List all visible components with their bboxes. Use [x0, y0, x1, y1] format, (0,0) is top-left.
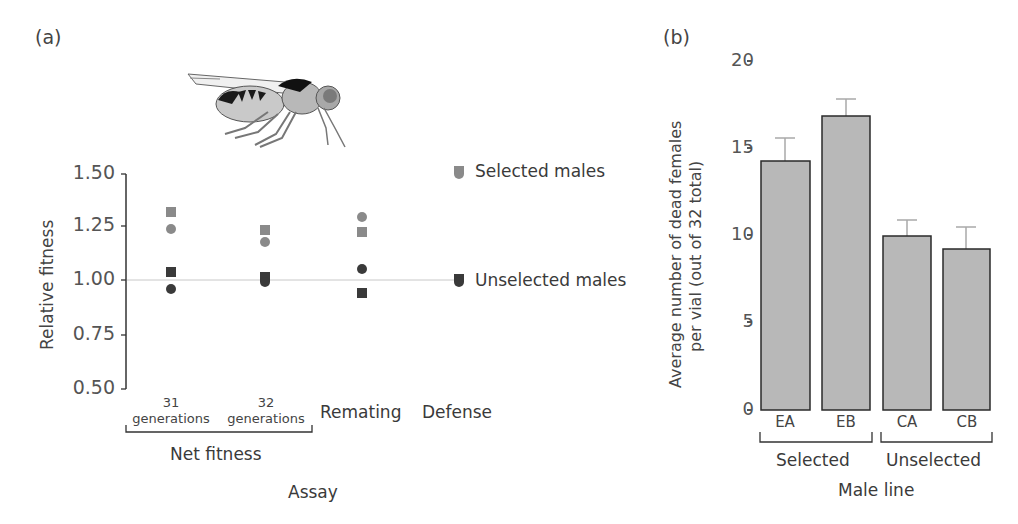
- bar-CA: [883, 236, 931, 410]
- y-axis-label-line1: Average number of dead females: [666, 121, 685, 388]
- selected-bracket: [760, 432, 872, 442]
- x-axis-label: Male line: [838, 480, 914, 500]
- panel-b-plot: [0, 0, 1018, 524]
- bar-label-EA: EA: [761, 413, 809, 431]
- unselected-bracket: [881, 432, 992, 442]
- bar-EB: [822, 116, 870, 410]
- group-label-selected: Selected: [776, 450, 850, 470]
- bar-EA: [761, 161, 810, 410]
- bar-label-CA: CA: [883, 413, 931, 431]
- y-tick: [747, 60, 752, 62]
- bar-label-CB: CB: [943, 413, 991, 431]
- y-axis-label-line2: per vial (out of 32 total): [686, 161, 705, 352]
- y-tick: [747, 234, 752, 236]
- group-label-unselected: Unselected: [886, 450, 981, 470]
- bar-label-EB: EB: [822, 413, 870, 431]
- bar-CB: [943, 249, 990, 410]
- y-tick: [747, 409, 752, 411]
- y-tick: [747, 147, 752, 149]
- y-tick: [747, 321, 752, 323]
